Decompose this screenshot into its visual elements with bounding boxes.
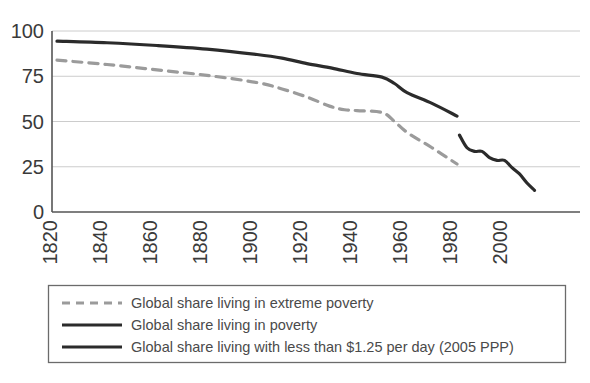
series-line-0: [57, 60, 457, 164]
chart-legend: Global share living in extreme povertyGl…: [49, 286, 566, 363]
poverty-share-line-chart: 0255075100 18201840186018801900192019401…: [0, 0, 590, 383]
y-tick-label: 0: [33, 201, 44, 223]
series-line-1: [57, 41, 457, 116]
x-tick-label: 1880: [189, 220, 211, 265]
x-tick-label: 1860: [139, 220, 161, 265]
series-line-2: [460, 135, 535, 190]
y-tick-label: 25: [22, 156, 44, 178]
legend-label-1: Global share living in poverty: [131, 317, 318, 333]
x-tick-label: 1900: [239, 220, 261, 265]
gridlines-group: [52, 31, 580, 167]
x-tick-label: 1980: [439, 220, 461, 265]
x-tick-label: 2000: [489, 220, 511, 265]
x-tick-label: 1840: [89, 220, 111, 265]
legend-label-0: Global share living in extreme poverty: [131, 295, 374, 311]
y-axis-tick-labels: 0255075100: [11, 20, 44, 223]
chart-canvas: 0255075100 18201840186018801900192019401…: [0, 0, 590, 383]
legend-label-2: Global share living with less than $1.25…: [131, 339, 514, 355]
x-tick-label: 1920: [289, 220, 311, 265]
y-tick-label: 50: [22, 111, 44, 133]
x-tick-label: 1820: [39, 220, 61, 265]
x-tick-label: 1960: [389, 220, 411, 265]
y-tick-label: 75: [22, 65, 44, 87]
series-lines-group: [57, 41, 535, 190]
x-tick-label: 1940: [339, 220, 361, 265]
x-axis-tick-labels: 1820184018601880190019201940196019802000: [39, 220, 511, 265]
y-tick-label: 100: [11, 20, 44, 42]
